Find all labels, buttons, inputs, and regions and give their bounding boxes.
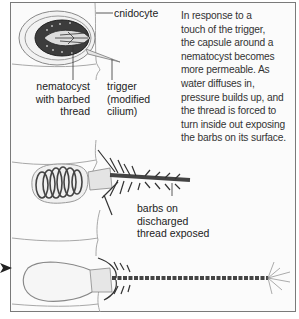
trigger-cilium bbox=[86, 49, 120, 62]
label-trigger-line: (modified bbox=[107, 93, 150, 106]
thread-tip-filaments bbox=[268, 262, 290, 294]
description-line: the barbs on its surface. bbox=[181, 131, 293, 145]
label-barbs-line: discharged bbox=[137, 215, 209, 228]
description-line: nematocyst becomes bbox=[181, 50, 293, 64]
label-nematocyst-line: with barbed bbox=[18, 93, 90, 106]
label-barbs: barbs on discharged thread exposed bbox=[137, 202, 209, 240]
description-line: turn inside out exposing bbox=[181, 118, 293, 132]
description-line: touch of the trigger, bbox=[181, 23, 293, 37]
description-line: the thread is forced to bbox=[181, 104, 293, 118]
label-nematocyst-line: thread bbox=[18, 105, 90, 118]
label-trigger-line: trigger bbox=[107, 80, 150, 93]
label-nematocyst: nematocyst with barbed thread bbox=[18, 80, 90, 118]
description-line: water diffuses in, bbox=[181, 77, 293, 91]
label-barbs-line: barbs on bbox=[137, 202, 209, 215]
description-line: pressure builds up, and bbox=[181, 91, 293, 105]
nematocyst-coiled bbox=[19, 11, 120, 80]
description-text: In response to a touch of the trigger, t… bbox=[181, 9, 293, 145]
description-line: the capsule around a bbox=[181, 36, 293, 50]
label-trigger-line: cilium) bbox=[107, 105, 150, 118]
label-cnidocyte: cnidocyte bbox=[114, 7, 158, 20]
arrowhead-right-icon bbox=[0, 263, 12, 273]
label-trigger: trigger (modified cilium) bbox=[107, 80, 150, 118]
label-barbs-line: thread exposed bbox=[137, 227, 209, 240]
label-nematocyst-line: nematocyst bbox=[18, 80, 90, 93]
description-line: In response to a bbox=[181, 9, 293, 23]
description-line: more permeable. As bbox=[181, 63, 293, 77]
nematocyst-discharged bbox=[23, 258, 290, 301]
